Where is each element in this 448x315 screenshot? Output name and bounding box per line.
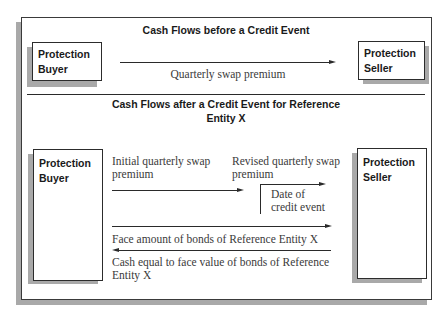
protection-buyer-label: Protection Buyer (38, 47, 102, 77)
initial-premium-line1: Initial quarterly swap (112, 155, 242, 168)
after-title-line2: Entity X (21, 111, 431, 125)
credit-event-line2: credit event (271, 201, 351, 214)
cash-label: Cash equal to face value of bonds of Ref… (112, 256, 352, 282)
seller-after-line2: Seller (363, 170, 427, 185)
seller-label-line2: Seller (364, 61, 428, 76)
protection-buyer-box-before: Protection Buyer (32, 42, 102, 81)
buyer-after-line1: Protection (39, 156, 103, 171)
protection-seller-label-after: Protection Seller (363, 155, 427, 185)
revised-premium-line2: premium (232, 168, 362, 181)
before-section-title: Cash Flows before a Credit Event (21, 23, 431, 37)
arrow-right-icon (329, 60, 336, 64)
revised-premium-arrow-line (260, 184, 320, 185)
after-section-title: Cash Flows after a Credit Event for Refe… (21, 97, 431, 125)
face-amount-arrow-line (112, 226, 326, 227)
protection-buyer-label-after: Protection Buyer (39, 156, 103, 186)
protection-seller-box-after: Protection Seller (357, 148, 427, 279)
arrow-right-icon (325, 224, 332, 228)
initial-premium-line2: premium (112, 168, 242, 181)
protection-seller-label: Protection Seller (364, 46, 428, 76)
cash-label-line1: Cash equal to face value of bonds of Ref… (112, 256, 352, 269)
premium-arrow-line (120, 62, 330, 63)
quarterly-premium-label: Quarterly swap premium (120, 68, 336, 81)
credit-event-line1: Date of (271, 188, 351, 201)
seller-after-line1: Protection (363, 155, 427, 170)
protection-buyer-box-after: Protection Buyer (33, 149, 103, 281)
seller-label-line1: Protection (364, 46, 428, 61)
face-amount-label: Face amount of bonds of Reference Entity… (112, 233, 352, 246)
buyer-label-line1: Protection (38, 47, 102, 62)
arrow-right-icon (319, 182, 326, 186)
revised-premium-label: Revised quarterly swap premium (232, 155, 362, 181)
cash-label-line2: Entity X (112, 269, 352, 282)
buyer-label-line2: Buyer (38, 62, 102, 77)
initial-premium-arrow-line (112, 190, 238, 191)
section-divider (27, 94, 425, 95)
revised-premium-line1: Revised quarterly swap (232, 155, 362, 168)
initial-premium-label: Initial quarterly swap premium (112, 155, 242, 181)
buyer-after-line2: Buyer (39, 171, 103, 186)
protection-seller-box-before: Protection Seller (358, 41, 425, 80)
arrow-right-icon (237, 188, 244, 192)
after-title-line1: Cash Flows after a Credit Event for Refe… (21, 97, 431, 111)
credit-event-label: Date of credit event (271, 188, 351, 214)
cash-arrow-line (118, 250, 331, 251)
credit-event-marker (260, 184, 261, 214)
